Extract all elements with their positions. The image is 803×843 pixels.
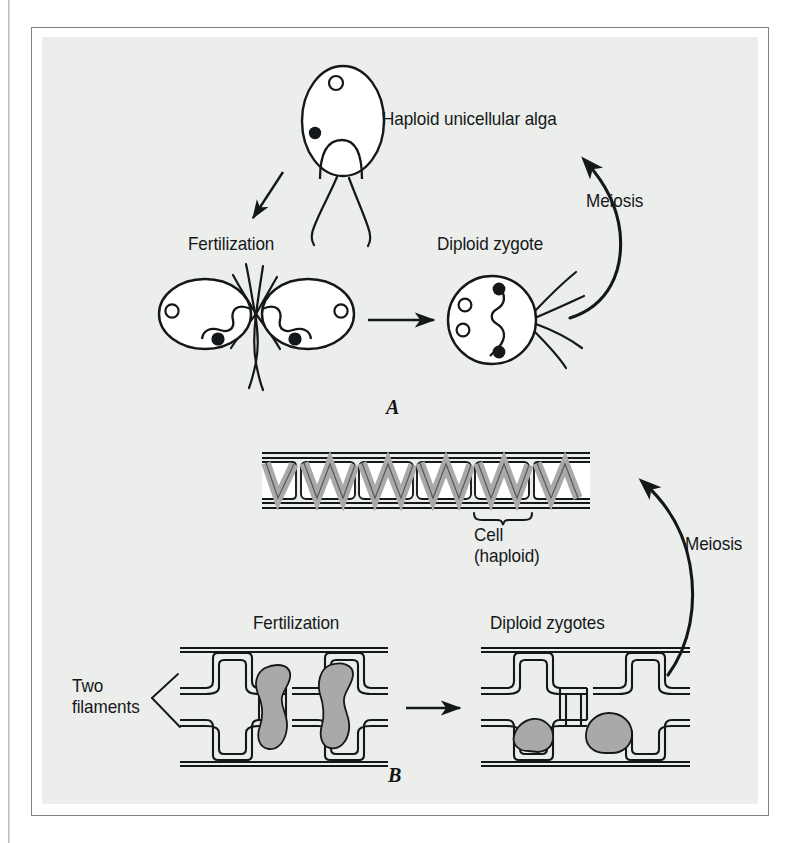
- label-two-filaments-line2: filaments: [72, 696, 140, 717]
- figure-plate-background: [42, 37, 758, 804]
- figure-page: Haploid unicellular alga Meiosis Fertili…: [0, 0, 803, 843]
- label-haploid-unicellular-alga: Haploid unicellular alga: [382, 108, 557, 129]
- label-meiosis-panel-a: Meiosis: [586, 190, 643, 211]
- panel-letter-b: B: [388, 764, 401, 787]
- label-fertilization-panel-b: Fertilization: [253, 612, 339, 633]
- label-diploid-zygote: Diploid zygote: [437, 233, 543, 254]
- label-cell-haploid-line2: (haploid): [474, 545, 540, 566]
- label-meiosis-panel-b: Meiosis: [685, 533, 742, 554]
- label-cell-haploid-line1: Cell: [474, 524, 503, 545]
- label-two-filaments-line1: Two: [72, 675, 103, 696]
- label-diploid-zygotes: Diploid zygotes: [490, 612, 605, 633]
- label-fertilization-panel-a: Fertilization: [188, 233, 274, 254]
- panel-letter-a: A: [386, 396, 399, 419]
- page-margin-rule-secondary: [9, 0, 10, 843]
- label-cell-haploid: Cell(haploid): [474, 524, 540, 567]
- label-two-filaments: Twofilaments: [72, 675, 140, 718]
